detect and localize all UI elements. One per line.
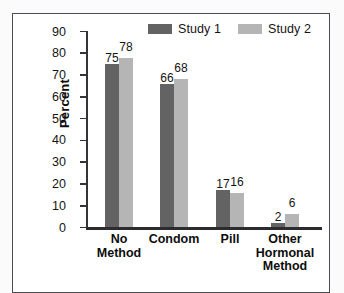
y-tick-label: 20 [52, 178, 66, 191]
y-tick-mark [80, 74, 86, 76]
bar-value-label: 16 [230, 176, 244, 188]
y-tick-mark [80, 52, 86, 54]
bar-value-label: 75 [105, 52, 119, 64]
y-tick-mark [80, 161, 86, 163]
y-tick-mark [80, 227, 86, 229]
y-axis-line [86, 31, 88, 229]
bar [285, 214, 299, 227]
y-tick-label: 50 [52, 113, 66, 126]
y-tick-mark [80, 140, 86, 142]
bar-value-label: 68 [174, 62, 188, 74]
x-category-label: OtherHormonalMethod [245, 233, 325, 274]
x-category-label-line: Method [245, 260, 325, 274]
x-category-label-line: Hormonal [245, 247, 325, 261]
bar [230, 193, 244, 228]
bar-value-label: 66 [160, 72, 174, 84]
y-tick-label: 90 [52, 26, 66, 39]
bar [160, 84, 174, 228]
bar [105, 64, 119, 227]
bar-value-label: 17 [216, 178, 230, 190]
bar [216, 190, 230, 227]
y-tick-mark [80, 96, 86, 98]
bar-value-label: 78 [119, 41, 133, 53]
y-tick-mark [80, 205, 86, 207]
y-tick-mark [80, 118, 86, 120]
y-tick-label: 30 [52, 156, 66, 169]
y-tick-label: 70 [52, 69, 66, 82]
bar-value-label: 2 [271, 211, 285, 223]
y-tick-label: 60 [52, 91, 66, 104]
bar-value-label: 6 [285, 197, 299, 209]
x-category-label-line: Other [245, 233, 325, 247]
y-tick-mark [80, 31, 86, 33]
x-category-label-line: Method [79, 247, 159, 261]
y-tick-label: 0 [59, 222, 66, 235]
y-tick-label: 10 [52, 200, 66, 213]
y-tick-label: 40 [52, 134, 66, 147]
y-tick-mark [80, 183, 86, 185]
y-tick-label: 80 [52, 47, 66, 60]
bar [174, 79, 188, 227]
bar [119, 58, 133, 228]
